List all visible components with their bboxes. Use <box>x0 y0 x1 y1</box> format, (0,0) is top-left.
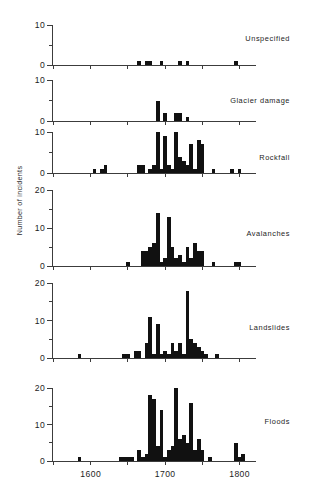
bar <box>160 61 164 65</box>
y-tick-label: 0 <box>40 353 45 363</box>
bar <box>197 347 201 358</box>
bar <box>197 251 201 266</box>
bar <box>160 169 164 173</box>
y-tick-label: 10 <box>35 127 45 137</box>
bar <box>141 457 145 461</box>
bar <box>186 247 190 266</box>
bar <box>156 213 160 266</box>
y-tick-label: 10 <box>35 223 45 233</box>
bar <box>163 113 167 121</box>
bar <box>163 258 167 266</box>
bar <box>126 354 130 358</box>
bar <box>93 169 97 173</box>
panel-label-floods: Floods <box>150 417 290 426</box>
y-tick-label: 10 <box>35 316 45 326</box>
bar <box>193 243 197 266</box>
bar <box>197 439 201 461</box>
bar <box>186 117 190 121</box>
bar <box>182 435 186 461</box>
bar <box>201 251 205 266</box>
bar <box>178 113 182 121</box>
y-tick-label: 10 <box>35 420 45 430</box>
panel-label-avalanches: Avalanches <box>150 229 290 238</box>
bar <box>152 165 156 173</box>
bar <box>234 262 238 266</box>
bar <box>238 457 242 461</box>
bar <box>171 247 175 266</box>
bar <box>193 450 197 461</box>
bar <box>145 454 149 461</box>
y-tick-label: 20 <box>35 383 45 393</box>
x-tick-label: 1800 <box>229 469 250 479</box>
bar <box>193 169 197 173</box>
bar <box>137 351 141 359</box>
bar <box>122 354 126 358</box>
bar <box>174 113 178 121</box>
bar <box>141 251 145 266</box>
bar <box>230 169 234 173</box>
x-tick-label: 1600 <box>80 469 101 479</box>
bar <box>201 351 205 359</box>
bar <box>186 165 190 173</box>
bar <box>148 395 152 461</box>
bar <box>141 165 145 173</box>
panel-stack: 010010010010200102001020 <box>0 0 315 488</box>
bar <box>145 61 149 65</box>
bar <box>167 165 171 173</box>
bar <box>167 217 171 266</box>
bar <box>171 446 175 461</box>
bar <box>145 251 149 266</box>
bar <box>204 354 208 358</box>
y-tick-label: 0 <box>40 116 45 126</box>
bar <box>130 457 134 461</box>
panel-landslides: 01020 <box>35 278 256 363</box>
y-tick-label: 20 <box>35 185 45 195</box>
chart-canvas: 010010010010200102001020 <box>0 0 315 488</box>
panel-label-rockfall: Rockfall <box>150 153 290 162</box>
bar <box>189 258 193 266</box>
bar <box>178 61 182 65</box>
y-tick-label: 0 <box>40 261 45 271</box>
bar <box>134 351 138 359</box>
bar <box>148 247 152 266</box>
panel-unspecified: 010 <box>35 20 256 70</box>
bar <box>137 165 141 173</box>
bar <box>182 161 186 173</box>
bar <box>104 165 108 173</box>
bar <box>78 457 82 461</box>
bar <box>234 443 238 461</box>
bar <box>156 446 160 461</box>
bar <box>189 403 193 461</box>
bar <box>145 343 149 358</box>
panel-label-unspecified: Unspecified <box>150 34 290 43</box>
bar <box>148 169 152 173</box>
y-tick-label: 0 <box>40 168 45 178</box>
bar <box>137 61 141 65</box>
bar <box>186 61 190 65</box>
y-tick-label: 20 <box>35 278 45 288</box>
bar <box>182 354 186 358</box>
panel-label-glacier-damage: Glacier damage <box>150 96 290 105</box>
bar <box>189 339 193 358</box>
x-axis-tick-labels: 160017001800 <box>0 469 315 488</box>
bar <box>171 343 175 358</box>
bar <box>241 454 245 461</box>
bar <box>212 169 216 173</box>
bar <box>171 169 175 173</box>
y-tick-label: 10 <box>35 20 45 30</box>
bar <box>100 169 104 173</box>
bar <box>201 450 205 461</box>
figure: Number of incidents 01001001001020010200… <box>0 0 315 488</box>
bar <box>186 443 190 461</box>
bar <box>152 354 156 358</box>
bar <box>126 262 130 266</box>
bar <box>174 351 178 359</box>
panel-label-landslides: Landslides <box>150 323 290 332</box>
bar <box>167 354 171 358</box>
x-tick-label: 1700 <box>155 469 176 479</box>
bar <box>160 262 164 266</box>
y-tick-label: 10 <box>35 75 45 85</box>
bar <box>152 399 156 461</box>
bar <box>137 450 141 461</box>
bar <box>167 450 171 461</box>
